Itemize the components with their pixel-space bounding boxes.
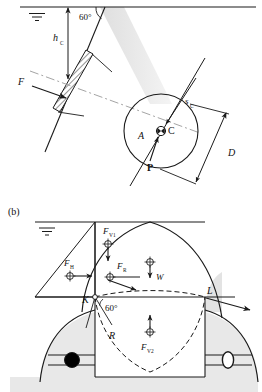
node-k-marker bbox=[93, 295, 98, 300]
free-surface-symbol bbox=[29, 14, 45, 21]
force-arrow-a bbox=[32, 86, 66, 98]
springing-arc bbox=[95, 291, 205, 297]
force-label-a: F bbox=[17, 76, 25, 87]
angle-label-b: 60° bbox=[105, 303, 118, 313]
slant-label-sub: C bbox=[190, 103, 194, 109]
crosshair-fv1 bbox=[103, 239, 114, 250]
force-fv1-group: F V1 bbox=[102, 226, 116, 261]
arch-curve-upper bbox=[82, 222, 222, 318]
depth-label-group: h C bbox=[53, 32, 64, 46]
centroid-marker bbox=[156, 126, 165, 135]
force-fr-arrow bbox=[108, 280, 136, 290]
depth-label-sub: C bbox=[60, 40, 64, 46]
crosshair-w bbox=[145, 257, 156, 268]
centroid-label: C bbox=[168, 125, 175, 136]
free-surface-symbol-b bbox=[39, 228, 55, 235]
force-fh-label-sub: H bbox=[70, 264, 74, 270]
force-fv2-label: F bbox=[140, 342, 147, 352]
angle-label-a: 60° bbox=[79, 12, 92, 22]
figure-root: 60° h C F bbox=[0, 0, 262, 392]
point-k-label: K bbox=[81, 294, 90, 305]
force-fr-group: F R bbox=[105, 261, 141, 290]
area-label: A bbox=[137, 130, 145, 141]
slant-label-group: s C bbox=[185, 96, 194, 109]
radius-label: R bbox=[108, 330, 115, 341]
diameter-dimension-line bbox=[196, 113, 226, 182]
technical-diagram-svg: 60° h C F bbox=[0, 0, 262, 392]
force-w-label: W bbox=[156, 272, 165, 282]
force-w-group: W bbox=[145, 257, 166, 283]
crosshair-fv2 bbox=[145, 327, 156, 338]
force-fh-group: F H bbox=[63, 258, 92, 282]
force-fv2-label-sub: V2 bbox=[147, 348, 154, 354]
depth-label: h bbox=[53, 32, 58, 43]
force-fh-label: F bbox=[63, 258, 70, 268]
wall-shading bbox=[100, 7, 172, 104]
pressure-center-label: P bbox=[147, 162, 153, 173]
force-fv1-label-sub: V1 bbox=[109, 232, 116, 238]
panel-b: (b) bbox=[8, 206, 258, 392]
force-fv1-label: F bbox=[102, 226, 109, 236]
force-fv2-group: F V2 bbox=[140, 315, 156, 354]
crosshair-fh bbox=[65, 271, 76, 282]
centroid-axis bbox=[30, 71, 200, 133]
slant-label: s bbox=[185, 96, 189, 106]
force-fr-label-sub: R bbox=[123, 267, 127, 273]
hatched-plate bbox=[53, 50, 93, 112]
force-fr-label: F bbox=[116, 261, 123, 271]
panel-b-caption: (b) bbox=[8, 206, 20, 218]
diameter-label: D bbox=[227, 147, 236, 158]
point-l-label: L bbox=[206, 285, 213, 296]
panel-a: 60° h C F bbox=[17, 7, 256, 186]
